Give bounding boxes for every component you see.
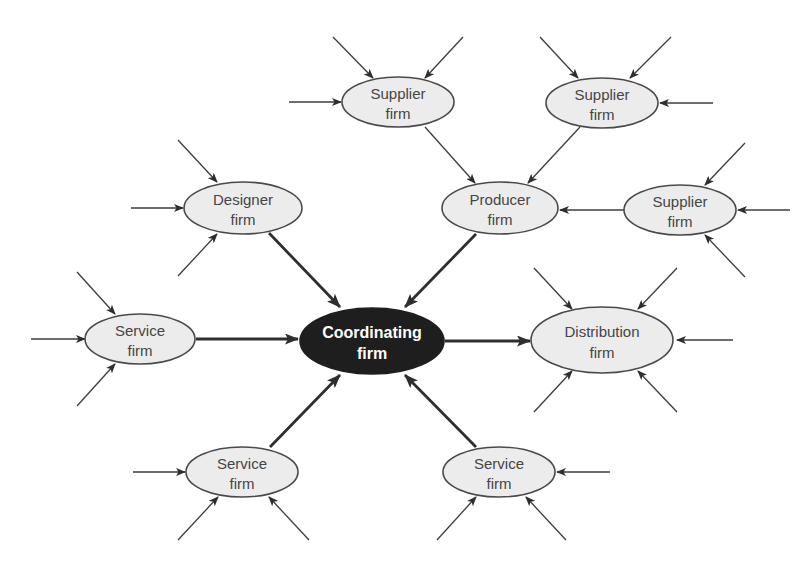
node-label-line1: Producer — [470, 191, 531, 208]
node-label-line1: Supplier — [370, 85, 425, 102]
node-producer: Producer firm — [442, 182, 558, 234]
node-distribution: Distribution firm — [531, 307, 673, 373]
node-label-line2: firm — [488, 211, 513, 228]
node-label-line1: Service — [474, 455, 524, 472]
node-label-line2: firm — [487, 475, 512, 492]
node-label-line2: firm — [590, 106, 615, 123]
node-label-line1: Supplier — [574, 86, 629, 103]
node-designer: Designer firm — [184, 182, 302, 234]
node-label-line1: Service — [217, 455, 267, 472]
node-service-bottom-left: Service firm — [186, 447, 298, 497]
node-supplier-right: Supplier firm — [624, 185, 736, 235]
node-label-line2: firm — [668, 213, 693, 230]
node-label-line2: firm — [231, 211, 256, 228]
node-service-left: Service firm — [85, 314, 195, 364]
node-label-line1: Designer — [213, 191, 273, 208]
node-label-line1: Distribution — [564, 323, 639, 340]
node-label-line1: Service — [115, 322, 165, 339]
node-supplier-top-right: Supplier firm — [546, 78, 658, 128]
node-label-line2: firm — [128, 342, 153, 359]
node-coordinating-firm: Coordinating firm — [300, 308, 444, 374]
node-label-line2: firm — [590, 344, 615, 361]
node-label-line2: firm — [230, 475, 255, 492]
node-label-line1: Coordinating — [322, 324, 422, 341]
node-service-bottom-right: Service firm — [443, 447, 555, 497]
node-label-line2: firm — [357, 345, 387, 362]
network-diagram: Supplier firm Supplier firm Supplier fir… — [0, 0, 811, 566]
node-supplier-top-left: Supplier firm — [342, 77, 454, 127]
node-label-line2: firm — [386, 105, 411, 122]
node-label-line1: Supplier — [652, 193, 707, 210]
